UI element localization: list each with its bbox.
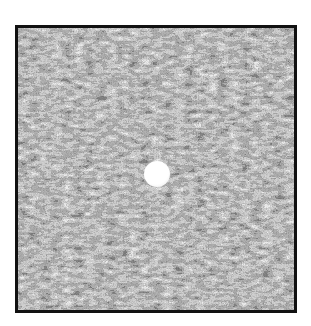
- golf-ball: [144, 161, 170, 187]
- grass-photo-frame: [15, 25, 297, 313]
